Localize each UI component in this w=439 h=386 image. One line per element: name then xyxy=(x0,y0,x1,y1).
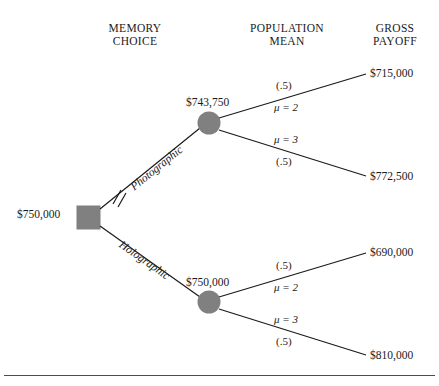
chance-node-holographic[interactable] xyxy=(198,291,221,314)
payoff-label-holographic-mu3: $810,000 xyxy=(370,349,413,362)
prune-mark-icon-2 xyxy=(118,193,126,207)
mean-label-holographic-mu3: μ = 3 xyxy=(274,313,298,326)
column-header-gross-payoff-line1: GROSS xyxy=(355,22,435,35)
column-header-memory-choice: MEMORY CHOICE xyxy=(75,22,195,48)
column-header-memory-choice-line1: MEMORY xyxy=(75,22,195,35)
root-value-label: $750,000 xyxy=(17,208,60,221)
payoff-label-photographic-mu2: $715,000 xyxy=(370,67,413,80)
probability-label-holographic-mu3: (.5) xyxy=(276,335,292,348)
column-header-memory-choice-line2: CHOICE xyxy=(75,35,195,48)
column-header-gross-payoff: GROSS PAYOFF xyxy=(355,22,435,48)
chance-node-photographic[interactable] xyxy=(198,112,221,135)
mean-label-photographic-mu3: μ = 3 xyxy=(274,133,298,146)
mean-label-photographic-mu2: μ = 2 xyxy=(274,101,298,114)
payoff-label-holographic-mu2: $690,000 xyxy=(370,246,413,259)
probability-label-holographic-mu2: (.5) xyxy=(276,259,292,272)
probability-label-photographic-mu2: (.5) xyxy=(276,79,292,92)
column-header-population-mean-line1: POPULATION xyxy=(222,22,352,35)
column-header-population-mean: POPULATION MEAN xyxy=(222,22,352,48)
mean-label-holographic-mu2: μ = 2 xyxy=(274,281,298,294)
decision-tree-figure: MEMORY CHOICE POPULATION MEAN GROSS PAYO… xyxy=(0,0,439,386)
chance-node-value-holographic: $750,000 xyxy=(186,276,229,289)
payoff-label-photographic-mu3: $772,500 xyxy=(370,170,413,183)
probability-label-photographic-mu3: (.5) xyxy=(276,155,292,168)
decision-node-square[interactable] xyxy=(77,206,100,229)
column-header-population-mean-line2: MEAN xyxy=(222,35,352,48)
column-header-gross-payoff-line2: PAYOFF xyxy=(355,35,435,48)
chance-node-value-photographic: $743,750 xyxy=(186,96,229,109)
tree-graphics xyxy=(0,0,439,386)
